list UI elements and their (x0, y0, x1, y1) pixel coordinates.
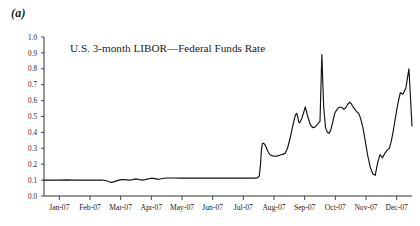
y-tick-label: 0.5 (28, 113, 37, 121)
y-tick-label: 0.2 (28, 161, 37, 169)
y-tick-label: 0.9 (28, 50, 37, 58)
x-tick-label: Feb-07 (79, 203, 101, 212)
y-axis-tick-labels: 0.00.10.20.30.40.50.60.70.80.91.0 (28, 34, 37, 201)
y-tick-label: 0.6 (28, 97, 37, 105)
x-tick-label: Jul-07 (234, 203, 253, 212)
x-tick-label: Mar-07 (109, 203, 132, 212)
y-tick-label: 0.8 (28, 65, 37, 73)
x-tick-label: Nov-07 (354, 203, 377, 212)
x-axis-tick-marks (59, 196, 396, 200)
data-series-line (44, 54, 412, 182)
y-tick-label: 0.7 (28, 81, 37, 89)
x-axis-tick-labels: Jan-07Feb-07Mar-07Apr-07May-07Jun-07Jul-… (49, 203, 408, 212)
figure-panel: (a) 0.00.10.20.30.40.50.60.70.80.91.0 Ja… (0, 0, 420, 226)
y-tick-label: 0.1 (28, 177, 37, 185)
x-tick-label: Dec-07 (385, 203, 408, 212)
x-tick-label: Oct-07 (325, 203, 346, 212)
x-tick-label: Jun-07 (202, 203, 223, 212)
y-tick-label: 0.0 (28, 193, 37, 201)
x-tick-label: Apr-07 (140, 203, 162, 212)
y-tick-label: 0.4 (28, 129, 37, 137)
x-tick-label: Jan-07 (49, 203, 69, 212)
y-tick-label: 1.0 (28, 34, 37, 42)
chart-title: U.S. 3-month LIBOR—Federal Funds Rate (70, 42, 265, 54)
line-chart: 0.00.10.20.30.40.50.60.70.80.91.0 Jan-07… (0, 0, 420, 226)
x-tick-label: May-07 (170, 203, 194, 212)
x-tick-label: Aug-07 (262, 203, 285, 212)
y-tick-label: 0.3 (28, 145, 37, 153)
x-tick-label: Sep-07 (294, 203, 316, 212)
